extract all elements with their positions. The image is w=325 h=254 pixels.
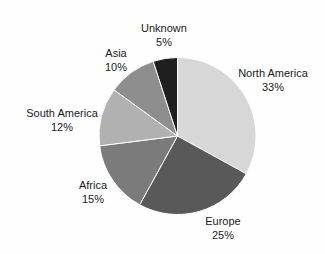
pie-chart: North America33%Europe25%Africa15%South … [0,0,325,254]
pie-label-percent: 5% [156,36,172,48]
pie-label-name: Africa [79,179,108,191]
pie-label-north-america: North America33% [238,67,309,93]
chart-canvas: North America33%Europe25%Africa15%South … [0,0,325,254]
pie-label-africa: Africa15% [79,179,108,205]
pie-label-name: Unknown [141,22,187,34]
pie-label-name: Europe [205,215,240,227]
pie-label-europe: Europe25% [205,215,240,241]
pie-label-name: Asia [105,47,127,59]
pie-label-percent: 15% [82,193,104,205]
pie-label-percent: 25% [212,229,234,241]
pie-label-south-america: South America12% [26,107,98,133]
pie-label-asia: Asia10% [105,47,128,73]
pie-label-name: North America [238,67,309,79]
pie-label-percent: 12% [51,121,73,133]
pie-label-name: South America [26,107,98,119]
pie-label-percent: 33% [262,81,284,93]
pie-label-unknown: Unknown5% [141,22,187,48]
pie-slices-group [99,57,256,214]
pie-label-percent: 10% [105,61,127,73]
